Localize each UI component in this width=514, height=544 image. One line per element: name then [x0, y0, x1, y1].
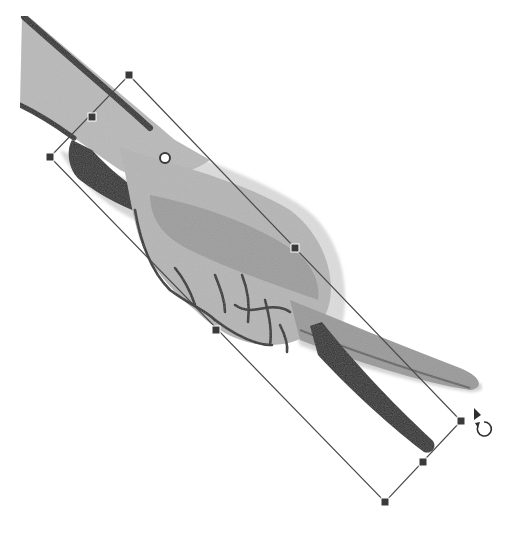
handle-mid-right-edge[interactable] [291, 244, 299, 252]
handle-mid-left-edge[interactable] [212, 326, 220, 334]
rotate-cursor-icon [474, 408, 491, 436]
handle-mid-top-left-edge[interactable] [88, 113, 96, 121]
drawing-canvas[interactable]: Drawing canvas [0, 0, 514, 544]
handle-corner-left[interactable] [46, 153, 54, 161]
pivot-point-handle[interactable] [160, 153, 170, 163]
artwork-hand-with-pen[interactable] [20, 16, 482, 453]
handle-corner-top[interactable] [125, 71, 133, 79]
handle-corner-bottom[interactable] [381, 498, 389, 506]
handle-corner-right[interactable] [457, 417, 465, 425]
handle-mid-bottom-edge[interactable] [419, 458, 427, 466]
